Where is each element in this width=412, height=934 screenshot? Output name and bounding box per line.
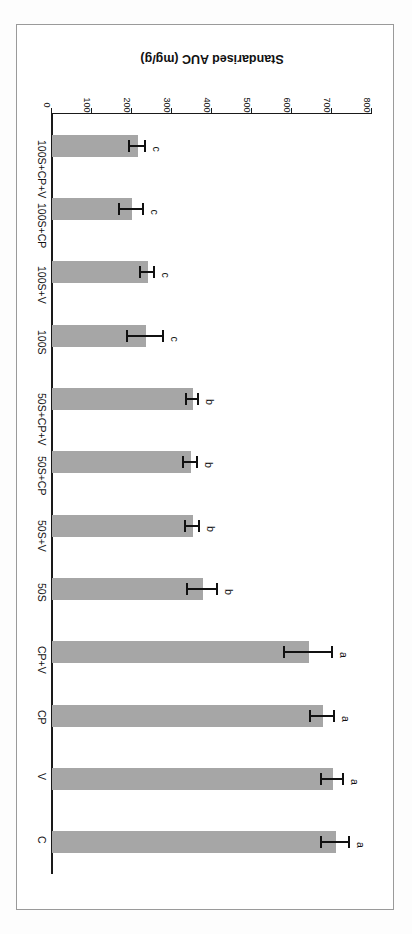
value-axis-tick-label: 100 (82, 85, 92, 125)
category-label: 50S+V (36, 520, 48, 552)
error-bar-cap (197, 393, 199, 405)
error-bar (128, 335, 164, 337)
category-label: 50S+CP (36, 456, 48, 495)
error-bar (188, 588, 218, 590)
category-label: C (36, 836, 48, 844)
value-axis-tick-label: 300 (162, 85, 172, 125)
bar[interactable] (52, 135, 138, 157)
error-bar-cap (320, 773, 322, 785)
category-axis-line (51, 114, 53, 874)
significance-letter: c (169, 332, 181, 346)
value-axis-tick-label: 500 (242, 85, 252, 125)
value-axis-tick-label: 600 (282, 85, 292, 125)
error-bar (285, 651, 333, 653)
value-axis-tick-label: 0 (42, 85, 52, 125)
significance-letter: a (338, 648, 350, 662)
significance-letter: b (223, 585, 235, 599)
error-bar-cap (342, 773, 344, 785)
significance-letter: a (355, 838, 367, 852)
significance-letter: b (204, 395, 216, 409)
error-bar-cap (162, 330, 164, 342)
error-bar-cap (309, 710, 311, 722)
significance-letter: a (340, 712, 352, 726)
error-bar-cap (216, 583, 218, 595)
bar[interactable] (52, 641, 309, 663)
value-axis-title: Standarised AUC (mg/g) (52, 52, 372, 66)
significance-letter: c (160, 268, 172, 282)
error-bar-cap (153, 266, 155, 278)
category-label: V (36, 773, 48, 780)
bar[interactable] (52, 768, 333, 790)
category-label: CP+V (36, 646, 48, 674)
value-axis-tick-label: 200 (122, 85, 132, 125)
error-bar (120, 208, 144, 210)
category-label: CP (36, 710, 48, 725)
value-axis-tick-label: 800 (362, 85, 372, 125)
category-label: 100S+CP+V (36, 140, 48, 198)
category-label: 100S+CP (36, 203, 48, 248)
significance-letter: c (149, 205, 161, 219)
error-bar-cap (320, 836, 322, 848)
error-bar-cap (283, 646, 285, 658)
bar[interactable] (52, 515, 193, 537)
significance-letter: b (203, 458, 215, 472)
error-bar-cap (196, 456, 198, 468)
category-label: 100S+V (36, 266, 48, 304)
error-bar (322, 778, 344, 780)
error-bar-cap (348, 836, 350, 848)
rotated-chart-container: 0100200300400500600700800 Standarised AU… (16, 24, 394, 910)
error-bar-cap (142, 203, 144, 215)
value-axis-tick-label: 700 (322, 85, 332, 125)
bar[interactable] (52, 705, 323, 727)
significance-letter: c (151, 142, 163, 156)
error-bar-cap (185, 393, 187, 405)
error-bar-cap (182, 456, 184, 468)
plot-area: 0100200300400500600700800 Standarised AU… (52, 114, 372, 874)
category-label: 50S (36, 583, 48, 602)
value-axis-tick-label: 400 (202, 85, 212, 125)
error-bar-cap (126, 330, 128, 342)
bar[interactable] (52, 261, 148, 283)
bar[interactable] (52, 451, 191, 473)
bar[interactable] (52, 388, 193, 410)
error-bar-cap (331, 646, 333, 658)
error-bar-cap (198, 520, 200, 532)
category-label: 50S+CP+V (36, 393, 48, 446)
error-bar-cap (184, 520, 186, 532)
error-bar-cap (118, 203, 120, 215)
error-bar (322, 841, 350, 843)
figure-page: 0100200300400500600700800 Standarised AU… (0, 0, 412, 934)
value-axis: 0100200300400500600700800 (52, 113, 372, 114)
significance-letter: a (349, 775, 361, 789)
category-label: 100S (36, 330, 48, 355)
error-bar-cap (139, 266, 141, 278)
error-bar-cap (333, 710, 335, 722)
error-bar-cap (186, 583, 188, 595)
bar[interactable] (52, 831, 336, 853)
error-bar (311, 715, 335, 717)
error-bar-cap (128, 140, 130, 152)
error-bar-cap (144, 140, 146, 152)
significance-letter: b (205, 522, 217, 536)
bar-chart: 0100200300400500600700800 Standarised AU… (16, 24, 394, 910)
bar[interactable] (52, 578, 203, 600)
